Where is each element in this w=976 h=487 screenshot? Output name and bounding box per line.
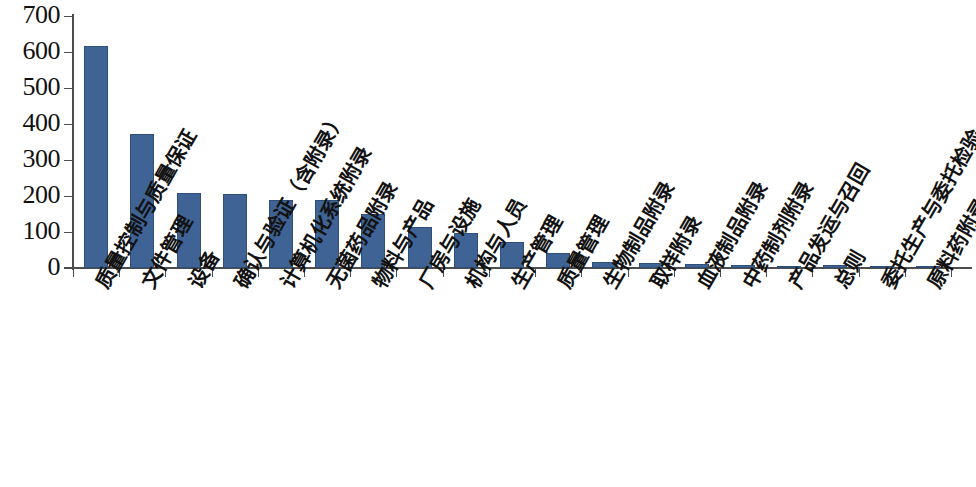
x-axis-tick-label: 总则 — [830, 281, 849, 292]
x-axis-tick-label: 物料与产品 — [368, 281, 387, 292]
x-axis-tick-label: 质量控制与质量保证 — [91, 281, 110, 292]
x-axis-tick-label: 委托生产与委托检验 — [877, 281, 896, 292]
x-axis-tick-label: 计算机化系统附录 — [276, 281, 295, 292]
y-axis-tick-label: 500 — [0, 74, 60, 100]
x-axis-tick-label: 生产管理 — [507, 281, 526, 292]
x-axis-tick-label: 确认与验证（含附录） — [230, 281, 249, 292]
x-axis-tick-label: 生物制品附录 — [599, 281, 618, 292]
x-axis-tick-label: 文件管理 — [137, 281, 156, 292]
x-axis-tick-label: 血液制品附录 — [692, 281, 711, 292]
x-axis-tick-label: 机构与人员 — [461, 281, 480, 292]
x-axis-tick-label: 无菌药品附录 — [322, 281, 341, 292]
x-axis-labels: 质量控制与质量保证文件管理设备确认与验证（含附录）计算机化系统附录无菌药品附录物… — [0, 276, 976, 487]
x-axis-tick-label: 取样附录 — [646, 281, 665, 292]
y-axis-tick-label: 700 — [0, 2, 60, 28]
y-axis-tick-label: 400 — [0, 110, 60, 136]
x-axis-tick-label: 设备 — [184, 281, 203, 292]
y-axis-tick-label: 600 — [0, 38, 60, 64]
x-axis-tick-label: 中药制剂附录 — [738, 281, 757, 292]
x-axis-tick-label: 质量管理 — [553, 281, 572, 292]
y-axis-tick-label: 300 — [0, 146, 60, 172]
y-axis-tick-label: 200 — [0, 182, 60, 208]
x-axis-tick-label: 厂房与设施 — [415, 281, 434, 292]
x-axis-tick-label: 产品发运与召回 — [784, 281, 803, 292]
x-axis-tick-label: 原料药附录 — [923, 281, 942, 292]
y-axis-tick-label: 100 — [0, 218, 60, 244]
bar — [84, 46, 108, 268]
bar-chart: 0100200300400500600700 质量控制与质量保证文件管理设备确认… — [0, 0, 976, 487]
